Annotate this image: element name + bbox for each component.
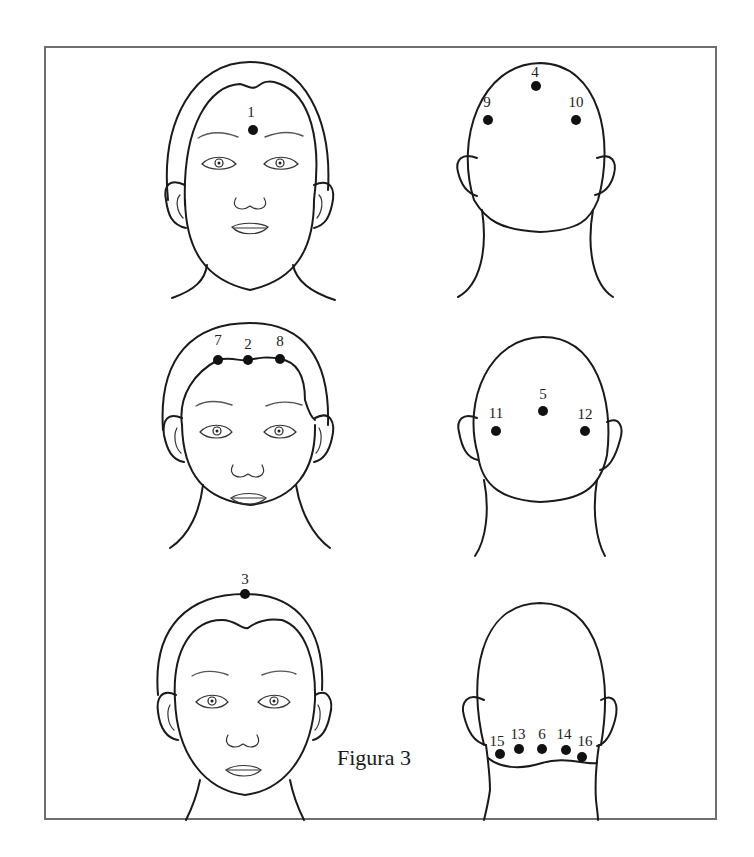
point-6-label: 6: [538, 726, 546, 742]
point-15-label: 15: [490, 733, 505, 749]
point-14-label: 14: [557, 726, 573, 742]
point-12-label: 12: [578, 406, 593, 422]
point-6-marker[interactable]: [537, 744, 547, 754]
front-face-bottom: [157, 594, 331, 820]
point-1-label: 1: [247, 104, 255, 120]
point-8-marker[interactable]: [275, 354, 285, 364]
illustration-canvas: 1 4 9 10 7 2 8 5 11 12 3 15 13: [0, 0, 754, 857]
point-12-marker[interactable]: [580, 426, 590, 436]
point-14-marker[interactable]: [561, 745, 571, 755]
point-11-marker[interactable]: [491, 426, 501, 436]
point-2-label: 2: [244, 336, 252, 352]
point-2-marker[interactable]: [243, 355, 253, 365]
point-10-marker[interactable]: [571, 115, 581, 125]
head-points-figure: 1 4 9 10 7 2 8 5 11 12 3 15 13: [0, 0, 754, 857]
point-1-marker[interactable]: [248, 125, 258, 135]
back-head-top: [457, 63, 615, 297]
figure-caption: Figura 3: [337, 745, 411, 771]
point-13-marker[interactable]: [514, 744, 524, 754]
point-4-marker[interactable]: [531, 81, 541, 91]
point-5-marker[interactable]: [538, 406, 548, 416]
point-9-label: 9: [483, 94, 491, 110]
point-13-label: 13: [511, 726, 526, 742]
point-3-label: 3: [241, 571, 249, 587]
front-face-top: [165, 62, 335, 300]
point-5-label: 5: [539, 386, 547, 402]
point-7-marker[interactable]: [213, 355, 223, 365]
acupoint-markers: 1 4 9 10 7 2 8 5 11 12 3 15 13: [213, 64, 593, 762]
point-10-label: 10: [569, 94, 584, 110]
point-16-label: 16: [578, 733, 594, 749]
point-15-marker[interactable]: [495, 749, 505, 759]
point-7-label: 7: [214, 332, 222, 348]
point-3-marker[interactable]: [240, 589, 250, 599]
back-head-bottom: [463, 603, 616, 820]
point-9-marker[interactable]: [483, 115, 493, 125]
point-16-marker[interactable]: [577, 752, 587, 762]
point-11-label: 11: [489, 405, 503, 421]
back-head-middle: [458, 337, 621, 556]
point-8-label: 8: [276, 333, 284, 349]
point-4-label: 4: [531, 64, 539, 80]
